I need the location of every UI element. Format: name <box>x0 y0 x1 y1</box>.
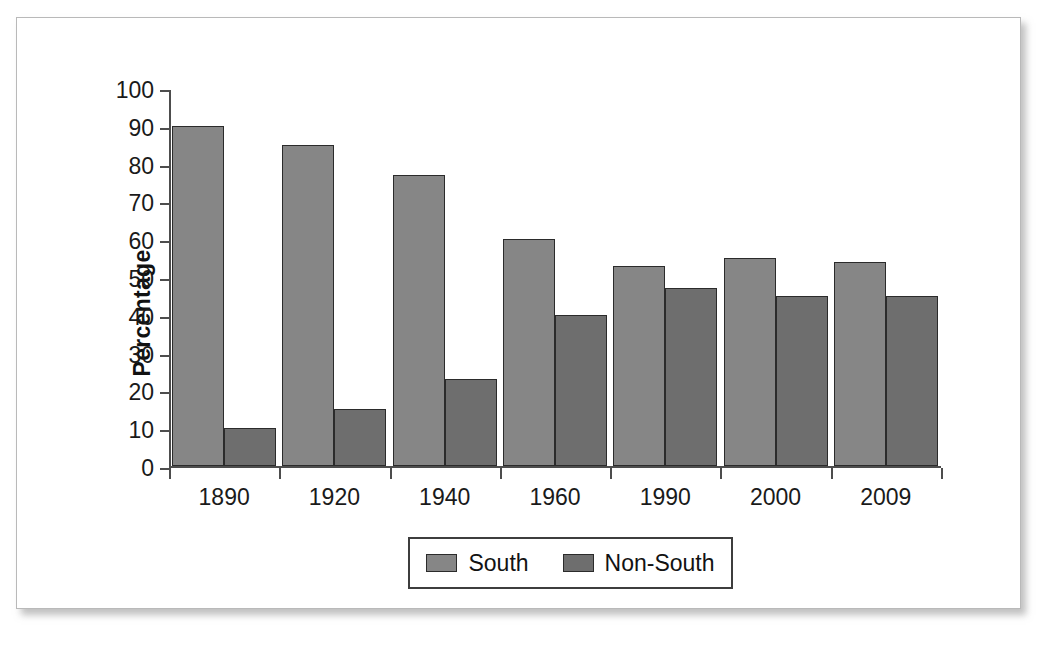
plot-region: 1009080706050403020100 18901920194019601… <box>169 90 941 468</box>
x-axis-tick <box>831 468 833 479</box>
y-axis-tick-label: 50 <box>128 266 154 292</box>
bar-group-bars <box>169 88 279 466</box>
y-axis-tick: 40 <box>160 317 169 319</box>
y-axis-tick: 90 <box>160 128 169 130</box>
x-axis-tick <box>169 468 171 479</box>
y-axis-tick-label: 30 <box>128 342 154 368</box>
x-axis-label: 2000 <box>720 484 830 511</box>
y-axis-tick-label: 100 <box>116 77 154 103</box>
y-axis-tick-label: 90 <box>128 115 154 141</box>
y-axis-tick-label: 60 <box>128 228 154 254</box>
y-axis-tick: 0 <box>160 468 169 470</box>
y-axis-tick: 80 <box>160 166 169 168</box>
legend-entry-non-south[interactable]: Non-South <box>563 550 715 577</box>
legend-label: South <box>468 550 528 577</box>
y-axis-tick-label: 10 <box>128 417 154 443</box>
bar-non-south-2000 <box>776 296 828 466</box>
x-axis-tick <box>390 468 392 479</box>
legend-swatch-icon <box>426 554 457 572</box>
y-axis-tick: 100 <box>160 90 169 92</box>
bar-group: 1920 <box>279 88 389 466</box>
x-axis-label: 1990 <box>610 484 720 511</box>
bar-non-south-1920 <box>334 409 386 466</box>
x-axis-label: 1960 <box>500 484 610 511</box>
chart-figure-frame: Percentage 1009080706050403020100 189019… <box>16 17 1021 609</box>
bar-group: 1940 <box>390 88 500 466</box>
bar-group: 1890 <box>169 88 279 466</box>
bar-non-south-1960 <box>555 315 607 466</box>
bar-group: 1990 <box>610 88 720 466</box>
y-axis-tick: 50 <box>160 279 169 281</box>
bar-non-south-1990 <box>665 288 717 466</box>
chart-legend: SouthNon-South <box>408 537 733 589</box>
bar-group-bars <box>831 88 941 466</box>
y-axis-tick: 70 <box>160 203 169 205</box>
bar-south-1920 <box>282 145 334 466</box>
x-axis-tick <box>279 468 281 479</box>
y-axis-tick-label: 40 <box>128 304 154 330</box>
bar-group: 2000 <box>720 88 830 466</box>
y-axis-tick: 30 <box>160 355 169 357</box>
bar-south-1890 <box>172 126 224 466</box>
bar-group: 1960 <box>500 88 610 466</box>
y-axis-tick-label: 70 <box>128 190 154 216</box>
bar-group-bars <box>610 88 720 466</box>
y-axis-tick-label: 80 <box>128 153 154 179</box>
bar-south-1940 <box>393 175 445 466</box>
legend-entry-south[interactable]: South <box>426 550 528 577</box>
bar-south-2009 <box>834 262 886 466</box>
y-axis-tick: 60 <box>160 241 169 243</box>
x-axis-line <box>169 466 941 468</box>
bar-group-bars <box>279 88 389 466</box>
y-axis-tick-label: 0 <box>141 455 154 481</box>
x-axis-label: 1940 <box>390 484 500 511</box>
bar-south-1990 <box>613 266 665 466</box>
y-axis-tick: 10 <box>160 430 169 432</box>
bar-non-south-1940 <box>445 379 497 466</box>
x-axis-tick <box>500 468 502 479</box>
bar-south-2000 <box>724 258 776 466</box>
x-axis-tick <box>941 468 943 479</box>
x-axis-label: 1920 <box>279 484 389 511</box>
x-axis-label: 2009 <box>831 484 941 511</box>
bar-group-bars <box>720 88 830 466</box>
bar-group-bars <box>390 88 500 466</box>
legend-swatch-icon <box>563 554 594 572</box>
x-axis-tick <box>610 468 612 479</box>
y-axis-tick-label: 20 <box>128 379 154 405</box>
y-axis-tick: 20 <box>160 392 169 394</box>
bar-non-south-1890 <box>224 428 276 466</box>
bar-non-south-2009 <box>886 296 938 466</box>
bar-group-bars <box>500 88 610 466</box>
bar-south-1960 <box>503 239 555 466</box>
x-axis-tick <box>720 468 722 479</box>
bar-group: 2009 <box>831 88 941 466</box>
legend-label: Non-South <box>605 550 715 577</box>
grouped-bar-chart: Percentage 1009080706050403020100 189019… <box>17 18 1020 608</box>
x-axis-label: 1890 <box>169 484 279 511</box>
